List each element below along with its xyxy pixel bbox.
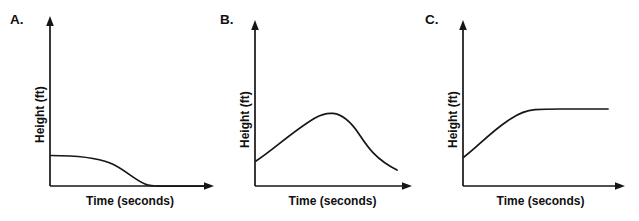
panel-b: B. Height (ft) Time (seconds) bbox=[215, 0, 420, 221]
panel-c-y-axis-label: Height (ft) bbox=[447, 91, 459, 148]
panel-c-x-axis-label: Time (seconds) bbox=[468, 195, 613, 207]
panel-b-y-axis-arrowhead bbox=[251, 20, 259, 30]
panel-a-y-axis-label: Height (ft) bbox=[34, 86, 46, 143]
panel-b-x-axis-arrowhead bbox=[402, 182, 412, 190]
panel-b-y-axis-label: Height (ft) bbox=[239, 91, 251, 148]
panel-c-curve bbox=[464, 109, 608, 157]
panel-c-x-axis-arrowhead bbox=[615, 182, 625, 190]
panel-a-x-axis-label: Time (seconds) bbox=[60, 195, 200, 207]
three-graph-figure: A. Height (ft) Time (seconds) B. Heig bbox=[0, 0, 639, 221]
panel-b-curve bbox=[256, 113, 397, 170]
panel-b-x-axis-label: Time (seconds) bbox=[260, 195, 405, 207]
panel-a: A. Height (ft) Time (seconds) bbox=[0, 0, 215, 221]
panel-c-y-axis-arrowhead bbox=[459, 20, 467, 30]
panel-a-y-axis-arrowhead bbox=[46, 16, 54, 26]
panel-c: C. Height (ft) Time (seconds) bbox=[420, 0, 639, 221]
panel-a-curve bbox=[51, 156, 208, 187]
